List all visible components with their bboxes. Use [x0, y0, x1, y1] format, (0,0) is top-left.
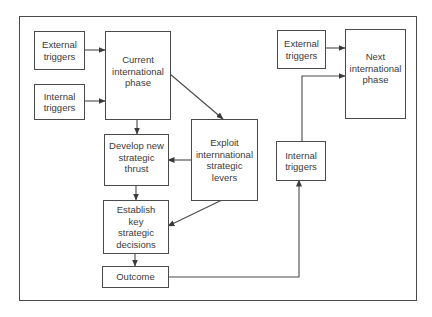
- next-phase-box: Next international phase: [345, 29, 406, 119]
- arrow-current-to-exploit: [170, 74, 223, 119]
- current-phase-box: Current international phase: [105, 31, 171, 120]
- develop-thrust-box: Develop new strategic thrust: [104, 134, 169, 186]
- external-triggers-right-label: External triggers: [284, 38, 319, 61]
- establish-decisions-label: Establish key strategic decisions: [116, 204, 156, 250]
- external-triggers-left-box: External triggers: [34, 31, 85, 70]
- outcome-label: Outcome: [116, 271, 155, 283]
- arrow-exploit-to-establish: [168, 200, 222, 226]
- internal-triggers-right-label: Internal triggers: [285, 150, 317, 173]
- exploit-levers-label: Exploit internnational strategic levers: [196, 137, 253, 183]
- outcome-box: Outcome: [102, 266, 169, 288]
- exploit-levers-box: Exploit internnational strategic levers: [191, 119, 258, 201]
- internal-triggers-left-box: Internal triggers: [34, 84, 85, 120]
- next-phase-label: Next international phase: [350, 51, 402, 86]
- external-triggers-left-label: External triggers: [42, 39, 77, 62]
- arrow-internal-to-next: [302, 76, 345, 141]
- develop-thrust-label: Develop new strategic thrust: [109, 140, 164, 175]
- internal-triggers-right-box: Internal triggers: [276, 141, 326, 181]
- establish-decisions-box: Establish key strategic decisions: [103, 200, 169, 254]
- internal-triggers-left-label: Internal triggers: [44, 91, 76, 114]
- external-triggers-right-box: External triggers: [277, 30, 326, 69]
- current-phase-label: Current international phase: [112, 54, 164, 89]
